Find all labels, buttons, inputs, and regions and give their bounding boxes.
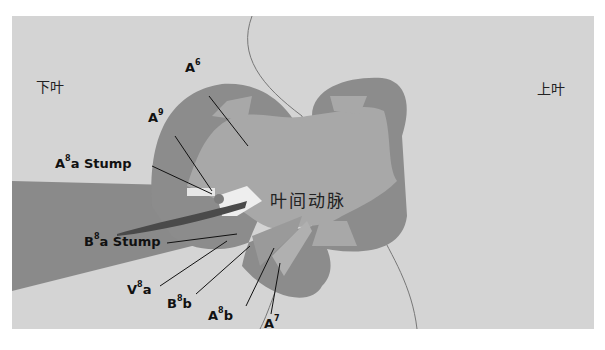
label-v8a: V8a	[127, 282, 151, 297]
anatomy-illustration	[12, 16, 594, 329]
upper-lobe-label: 上叶	[537, 78, 565, 98]
label-a8b: A8b	[208, 308, 233, 323]
label-a8a-stump: A8a Stump	[55, 156, 132, 171]
label-a6: A6	[185, 60, 201, 75]
diagram-canvas: 下叶 上叶 叶间动脉 A6 A9 A8a Stump B8a Stump V8a…	[12, 16, 594, 329]
lower-lobe-label: 下叶	[36, 76, 64, 96]
label-b8a-stump: B8a Stump	[84, 234, 160, 249]
label-a9: A9	[148, 110, 164, 125]
label-b8b: B8b	[167, 296, 192, 311]
a8a-stump-cap	[214, 194, 224, 204]
interlobar-artery-label: 叶间动脉	[270, 187, 346, 212]
label-a7: A7	[264, 316, 280, 329]
